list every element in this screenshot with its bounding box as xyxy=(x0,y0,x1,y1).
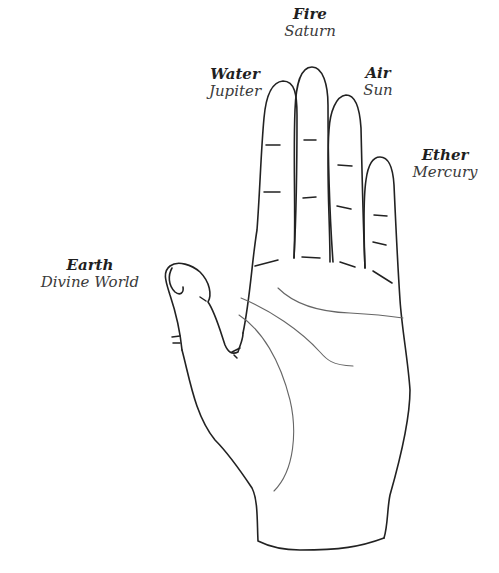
label-thumb: Earth Divine World xyxy=(30,257,150,291)
wrist-outline xyxy=(182,350,384,550)
thumb-crease xyxy=(172,336,180,343)
label-middle-element: Fire xyxy=(270,6,350,23)
label-index-element: Water xyxy=(195,66,275,83)
middle-creases xyxy=(302,140,320,258)
label-middle: Fire Saturn xyxy=(270,6,350,40)
label-little-planet: Mercury xyxy=(400,164,490,181)
little-creases xyxy=(373,215,392,283)
middle-finger-outline xyxy=(294,67,333,262)
label-thumb-element: Earth xyxy=(30,257,150,274)
ring-finger-outline xyxy=(328,95,365,268)
label-ring-planet: Sun xyxy=(353,82,403,99)
label-middle-planet: Saturn xyxy=(270,23,350,40)
label-index: Water Jupiter xyxy=(195,66,275,100)
label-ring-element: Air xyxy=(353,65,403,82)
life-line xyxy=(239,315,294,491)
index-finger-outline xyxy=(243,81,297,333)
thumb-outline xyxy=(165,263,243,353)
little-finger-outline xyxy=(364,157,410,538)
heart-line xyxy=(278,288,403,318)
label-little: Ether Mercury xyxy=(400,147,490,181)
label-ring: Air Sun xyxy=(353,65,403,99)
label-little-element: Ether xyxy=(400,147,490,164)
thumb-crease xyxy=(200,297,206,301)
ring-creases xyxy=(337,165,355,267)
thumbnail-outline xyxy=(169,268,183,294)
label-thumb-planet: Divine World xyxy=(30,274,150,291)
hand-diagram: Earth Divine World Water Jupiter Fire Sa… xyxy=(0,0,499,573)
label-index-planet: Jupiter xyxy=(195,83,275,100)
